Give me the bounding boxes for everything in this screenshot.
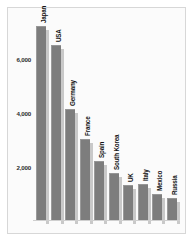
bar-slot: Germany (65, 16, 76, 221)
bar: South Korea (109, 173, 119, 221)
bar-slot: South Korea (109, 16, 120, 221)
bar: France (80, 139, 90, 221)
bar-category-label: France (84, 117, 91, 136)
y-axis: 2,0004,0006,000 (8, 8, 33, 233)
bar: Italy (138, 184, 148, 221)
bar-category-label: UK (127, 173, 134, 182)
y-axis-tick-label: 6,000 (17, 56, 31, 63)
bar-slot: France (80, 16, 91, 221)
bar-category-label: USA (55, 29, 62, 42)
bar-slot: Mexico (152, 16, 163, 221)
bar-category-label: Spain (98, 142, 105, 158)
bar: Germany (65, 109, 75, 221)
bar-category-label: Russia (171, 176, 178, 195)
bar-slot: Japan (36, 16, 47, 221)
plot-area: JapanUSAGermanyFranceSpainSouth KoreaUKI… (33, 16, 180, 221)
bar: Japan (36, 26, 46, 221)
bar-series: JapanUSAGermanyFranceSpainSouth KoreaUKI… (33, 16, 180, 221)
bar-category-label: Mexico (156, 171, 163, 191)
bar-slot: Russia (167, 16, 178, 221)
bar-category-label: South Korea (113, 135, 120, 170)
bar-slot: Spain (94, 16, 105, 221)
bar-category-label: Germany (69, 81, 76, 107)
plot-frame: Automobiles Production of passenger cars… (7, 7, 186, 234)
bar-slot: USA (51, 16, 62, 221)
bar: Russia (167, 198, 177, 221)
y-axis-tick-label: 4,000 (17, 110, 31, 117)
bar: Spain (94, 161, 104, 221)
bar-slot: UK (123, 16, 134, 221)
bar: Mexico (152, 194, 162, 221)
y-axis-tick-label: 2,000 (17, 164, 31, 171)
axis-baseline (33, 220, 180, 221)
bar-category-label: Italy (142, 169, 149, 181)
bar: UK (123, 185, 133, 221)
chart-figure: Automobiles Production of passenger cars… (0, 0, 193, 241)
bar-category-label: Japan (40, 6, 47, 23)
bar-slot: Italy (138, 16, 149, 221)
bar: USA (51, 45, 61, 221)
